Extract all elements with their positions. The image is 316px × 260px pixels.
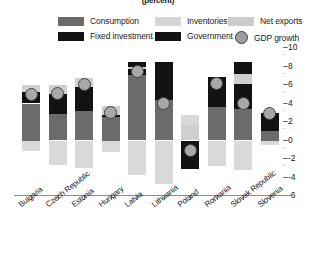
y-tick-label: –4	[283, 98, 293, 108]
bar-segment	[75, 141, 93, 169]
bar-segment	[155, 62, 173, 80]
legend-swatch-consumption	[58, 17, 84, 26]
y-minor-tick: ·	[283, 70, 288, 77]
y-minor-tick: ·	[283, 107, 288, 114]
gdp-growth-marker	[210, 77, 223, 90]
gdp-growth-marker	[78, 78, 91, 91]
legend-label-gdp-growth: GDP growth	[254, 33, 299, 43]
y-tick-label: –10	[283, 42, 297, 52]
bar-segment	[128, 75, 146, 141]
legend-label-net-exports: Net exports	[260, 16, 302, 26]
bar-segment	[234, 109, 252, 140]
y-tick-label: –6	[283, 79, 293, 89]
y-minor-tick: ·	[283, 144, 288, 151]
bar-segment	[128, 141, 146, 175]
legend-item-fixed-investment: Fixed investment	[58, 31, 153, 41]
bar-segment	[22, 104, 40, 141]
bar-segment	[181, 125, 199, 141]
y-axis-labels: –-6·–-4·–-2·–0·–2·–4·–6·–8·–10	[283, 48, 316, 196]
legend-item-inventories: Inventories	[155, 16, 227, 26]
y-minor-tick: ·	[283, 125, 288, 132]
y-tick-label: –0	[283, 135, 293, 145]
y-minor-tick: ·	[283, 51, 288, 58]
legend-swatch-inventories	[155, 17, 181, 26]
bar-segment	[208, 141, 226, 167]
bar-segment	[49, 141, 67, 165]
legend-swatch-fixed-investment	[58, 32, 84, 41]
legend-item-net-exports: Net exports	[228, 16, 302, 26]
gdp-growth-marker	[131, 65, 144, 78]
chart-title: (percent)	[0, 0, 316, 5]
legend-label-inventories: Inventories	[187, 16, 227, 26]
y-minor-tick: ·	[283, 181, 288, 188]
bar-segment	[155, 141, 173, 184]
bar-segment	[261, 131, 279, 140]
bar-segment	[234, 62, 252, 74]
bar-segment	[49, 114, 67, 141]
zero-line	[18, 141, 283, 142]
legend-swatch-government	[155, 32, 181, 41]
gdp-growth-marker	[51, 87, 64, 100]
y-minor-tick: ·	[283, 88, 288, 95]
y-minor-tick: ·	[283, 162, 288, 169]
bar-segment	[181, 115, 199, 125]
legend-item-government: Government	[155, 31, 233, 41]
bar-segment	[102, 117, 120, 140]
legend-label-fixed-investment: Fixed investment	[90, 31, 153, 41]
gdp-growth-marker-icon	[235, 31, 248, 44]
bar-segment	[234, 74, 252, 84]
legend-label-government: Government	[187, 31, 233, 41]
chart-root: (percent) Consumption Fixed investment I…	[0, 0, 316, 260]
bar-segment	[75, 111, 93, 141]
legend-label-consumption: Consumption	[90, 16, 139, 26]
gdp-growth-marker	[184, 144, 197, 157]
y-tick-label: –2	[283, 116, 293, 126]
legend-swatch-net-exports	[228, 17, 254, 26]
chart-legend: Consumption Fixed investment Inventories…	[0, 16, 316, 48]
gdp-growth-marker	[237, 97, 250, 110]
bar-segment	[261, 121, 279, 131]
y-tick-label: –-2	[283, 153, 296, 163]
y-tick-label: –8	[283, 61, 293, 71]
gdp-growth-marker	[25, 88, 38, 101]
bar-segment	[102, 141, 120, 152]
bar-segment	[234, 141, 252, 171]
bar-segment	[208, 107, 226, 140]
x-axis-category-labels: BulgariaCzech RepublicEstoniaHungaryLatv…	[0, 198, 316, 260]
plot-area	[18, 48, 283, 196]
legend-item-consumption: Consumption	[58, 16, 139, 26]
bar-segment	[22, 141, 40, 151]
y-tick-label: –-4	[283, 172, 296, 182]
